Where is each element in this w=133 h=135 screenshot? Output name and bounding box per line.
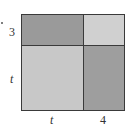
label-bottom-right: 4 [100,114,106,126]
region-bottom-right [83,45,125,111]
region-top-right [83,14,125,46]
label-left-top: 3 [9,26,15,38]
bullet-dot [1,22,3,24]
region-top-left [21,14,84,46]
label-bottom-left: t [50,114,53,126]
region-bottom-left [21,45,84,111]
label-left-bottom: t [10,73,13,85]
